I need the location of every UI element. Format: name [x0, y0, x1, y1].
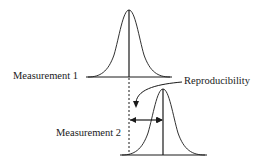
reproducibility-label: Reproducibility — [184, 75, 250, 87]
arrowhead-right-icon — [156, 117, 162, 123]
arrowhead-left-icon — [130, 117, 136, 123]
measurement-2-label: Measurement 2 — [56, 127, 121, 139]
measurement-1-label: Measurement 1 — [13, 70, 78, 82]
measurement-2-distribution — [120, 89, 207, 155]
reproducibility-callout-arrow — [133, 82, 182, 108]
shift-double-arrow — [130, 117, 162, 123]
arrowhead-down-icon — [133, 101, 139, 108]
reproducibility-diagram: Measurement 1 Reproducibility Measuremen… — [0, 0, 266, 166]
measurement-1-distribution — [86, 10, 172, 77]
